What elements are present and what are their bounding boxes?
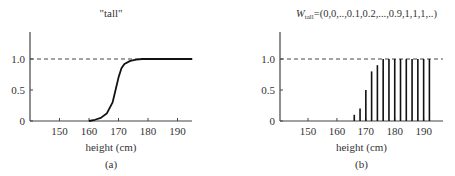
y-tick-label: 0 [270, 115, 276, 127]
chart-b: 00.51.0150160170180190height (cm)(b)Wtal… [261, 8, 443, 171]
figure: 00.51.0150160170180190height (cm)(a)"tal… [0, 0, 455, 176]
y-tick-label: 0 [20, 115, 26, 127]
caption: (b) [355, 158, 368, 171]
x-axis-label: height (cm) [85, 141, 136, 154]
x-tick-label: 190 [169, 125, 186, 137]
x-tick-label: 160 [329, 125, 346, 137]
y-tick-label: 0.5 [11, 84, 25, 96]
x-tick-label: 170 [358, 125, 375, 137]
y-tick-label: 1.0 [261, 53, 275, 65]
x-tick-label: 150 [300, 125, 317, 137]
x-tick-label: 150 [51, 125, 68, 137]
x-tick-label: 190 [415, 125, 432, 137]
chart-a: 00.51.0150160170180190height (cm)(a)"tal… [11, 7, 192, 171]
x-tick-label: 160 [81, 125, 98, 137]
membership-curve [89, 59, 192, 121]
y-tick-label: 0.5 [261, 84, 275, 96]
x-tick-label: 170 [110, 125, 127, 137]
chart-title: Wtall=(0,0,..,0.1,0.2,...,0.9,1,1,1,..) [296, 8, 437, 21]
chart-title: "tall" [99, 7, 122, 19]
caption: (a) [105, 158, 118, 171]
x-axis-label: height (cm) [336, 141, 387, 154]
y-tick-label: 1.0 [11, 53, 25, 65]
x-tick-label: 180 [386, 125, 403, 137]
x-tick-label: 180 [140, 125, 157, 137]
